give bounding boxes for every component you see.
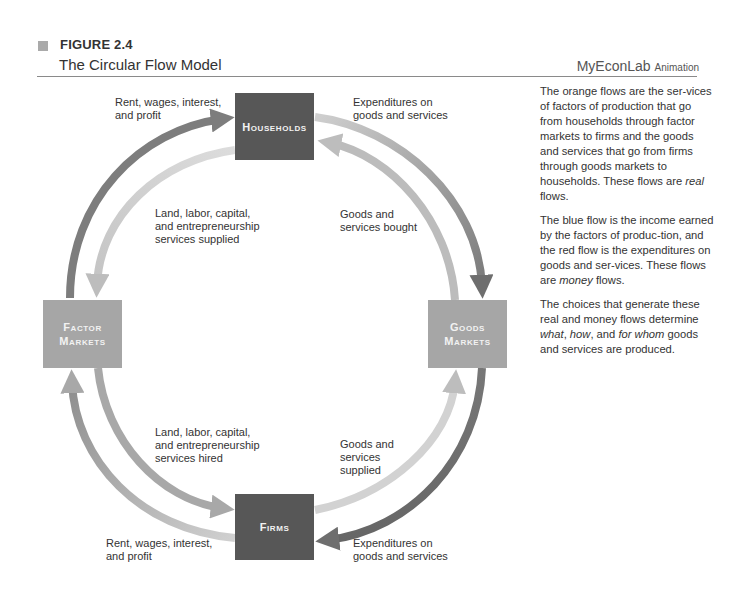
goods-markets-node: Goods Markets <box>428 300 507 368</box>
label-factor-services-hired: Land, labor, capital, and entrepreneursh… <box>155 426 260 465</box>
label-goods-bought: Goods and services bought <box>340 208 417 234</box>
goods-markets-label-1: Goods <box>450 320 485 334</box>
description-paragraph-money: The blue flow is the income earned by th… <box>540 213 715 288</box>
description-paragraph-real: The orange flows are the ser-vices of fa… <box>540 84 715 204</box>
label-income-top: Rent, wages, interest, and profit <box>115 96 221 122</box>
firms-node: Firms <box>235 494 314 560</box>
figure-description: The orange flows are the ser-vices of fa… <box>540 84 715 366</box>
factor-markets-node: Factor Markets <box>43 300 122 368</box>
households-node: Households <box>235 93 314 160</box>
label-factor-services-supplied: Land, labor, capital, and entrepreneursh… <box>155 207 260 246</box>
label-expenditure-bottom: Expenditures on goods and services <box>353 537 448 563</box>
label-goods-supplied: Goods and services supplied <box>340 438 394 477</box>
label-income-bottom: Rent, wages, interest, and profit <box>106 537 212 563</box>
label-expenditure-top: Expenditures on goods and services <box>353 96 448 122</box>
description-paragraph-choices: The choices that generate these real and… <box>540 297 715 357</box>
households-label: Households <box>242 120 307 134</box>
firms-label: Firms <box>260 520 290 534</box>
goods-markets-label-2: Markets <box>444 334 490 348</box>
factor-markets-label-1: Factor <box>63 320 102 334</box>
factor-markets-label-2: Markets <box>59 334 105 348</box>
